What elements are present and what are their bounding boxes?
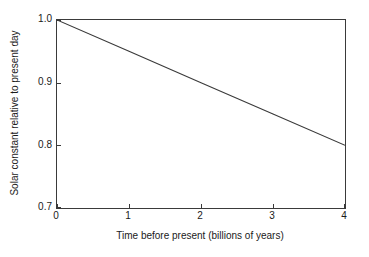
x-tick-mark-3 (201, 204, 202, 208)
x-tick-label-3: 2 (185, 211, 215, 221)
chart-figure: Solar constant relative to present day 1… (0, 0, 369, 257)
x-tick-mark-4 (273, 204, 274, 208)
y-tick-mark-2 (57, 83, 61, 84)
x-tick-label-1: 0 (41, 211, 71, 221)
data-line-svg (57, 20, 345, 208)
y-tick-mark-3 (57, 145, 61, 146)
y-axis-title: Solar constant relative to present day (9, 30, 21, 195)
y-axis-title-container: Solar constant relative to present day (8, 19, 22, 207)
y-tick-label-1: 1.0 (0, 14, 52, 24)
x-axis-title: Time before present (billions of years) (56, 230, 344, 242)
x-tick-mark-5 (344, 204, 345, 208)
x-tick-mark-1 (57, 204, 58, 208)
y-tick-label-3: 0.8 (0, 140, 52, 150)
y-tick-label-2: 0.9 (0, 77, 52, 87)
solar-constant-line (57, 20, 345, 145)
x-tick-mark-2 (129, 204, 130, 208)
plot-area (56, 19, 346, 209)
x-tick-label-5: 4 (329, 211, 359, 221)
x-tick-label-2: 1 (113, 211, 143, 221)
y-tick-mark-1 (57, 20, 61, 21)
x-tick-label-4: 3 (257, 211, 287, 221)
